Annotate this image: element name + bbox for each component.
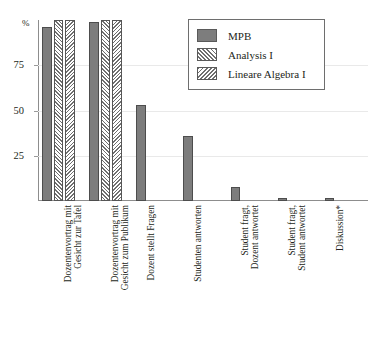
- bar: [42, 27, 52, 201]
- y-axis-tick-label: 25: [14, 151, 25, 161]
- legend-item-mpb: MPB: [197, 26, 316, 45]
- y-axis-unit-label: %: [22, 19, 30, 28]
- bar: [89, 22, 99, 201]
- legend-swatch-mpb-icon: [197, 29, 217, 42]
- y-axis-tick-label: 50: [14, 106, 25, 116]
- legend-item-analysis-i: Analysis I: [197, 45, 316, 64]
- bar: [231, 187, 241, 201]
- x-axis-category-label: Student fragt, Student antwortet: [287, 205, 308, 335]
- legend-swatch-analysis-i-icon: [197, 48, 217, 61]
- bar: [183, 136, 193, 201]
- bar: [278, 198, 288, 201]
- bar: [136, 105, 146, 201]
- x-axis-category-label: Student fragt, Dozent antwortet: [240, 205, 261, 335]
- x-axis-category-label: Studenten antworten: [193, 205, 203, 335]
- x-axis-category-label: Diskussion*: [335, 205, 345, 335]
- legend-label-analysis-i: Analysis I: [228, 49, 273, 61]
- y-axis-tick: [34, 65, 38, 66]
- bar: [325, 198, 335, 201]
- bar-chart: % 755025 MPB Analysis I Lineare Algebra …: [0, 0, 380, 339]
- y-axis-tick-label: 75: [14, 60, 25, 70]
- legend-label-mpb: MPB: [228, 30, 251, 42]
- chart-legend: MPB Analysis I Lineare Algebra I: [188, 19, 325, 90]
- y-axis-tick: [34, 156, 38, 157]
- bar: [54, 20, 64, 201]
- legend-swatch-lineare-algebra-i-icon: [197, 67, 217, 80]
- bar: [65, 20, 75, 201]
- gridline: [38, 156, 368, 157]
- gridline: [38, 111, 368, 112]
- x-axis-category-label: Dozentenvortrag mit Gesicht zum Publikum: [110, 205, 131, 335]
- bar: [112, 20, 122, 201]
- y-axis-tick: [34, 111, 38, 112]
- bar: [101, 20, 111, 201]
- x-axis-category-labels: Dozentenvortrag mit Gesicht zur TafelDoz…: [38, 203, 368, 337]
- x-axis-category-label: Dozent stellt Fragen: [146, 205, 156, 335]
- legend-label-lineare-algebra-i: Lineare Algebra I: [228, 68, 306, 80]
- x-axis-category-label: Dozentenvortrag mit Gesicht zur Tafel: [63, 205, 84, 335]
- legend-item-lineare-algebra-i: Lineare Algebra I: [197, 64, 316, 83]
